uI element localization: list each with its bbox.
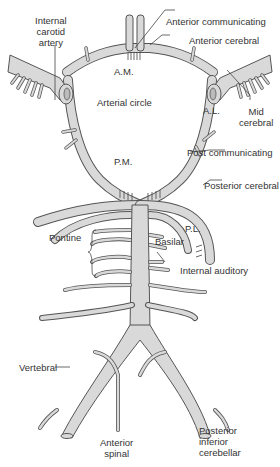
label-posterior-cerebral: Posterior cerebral bbox=[204, 180, 279, 191]
label-line: inferior bbox=[199, 436, 241, 447]
label-anterior-communicating: Anterior communicating bbox=[166, 16, 266, 27]
label-pl: P.L. bbox=[185, 223, 201, 234]
label-line: Posterior bbox=[199, 425, 241, 436]
label-basilar: Basilar bbox=[155, 236, 184, 247]
label-pm: P.M. bbox=[114, 156, 132, 167]
label-internal-auditory: Internal auditory bbox=[180, 265, 248, 276]
label-anterior-cerebral: Anterior cerebral bbox=[189, 35, 259, 46]
label-arterial-circle: Arterial circle bbox=[97, 97, 152, 108]
label-line: spinal bbox=[100, 448, 133, 459]
label-pontine: Pontine bbox=[49, 232, 81, 243]
label-post-communicating: Post communicating bbox=[187, 147, 273, 158]
label-line: Internal bbox=[35, 15, 67, 26]
label-posterior-inferior-cerebellar: Posterior inferior cerebellar bbox=[199, 425, 241, 458]
label-anterior-spinal: Anterior spinal bbox=[100, 437, 133, 459]
label-line: cerebral bbox=[239, 117, 273, 128]
label-line: Mid bbox=[239, 106, 273, 117]
label-al: A.L. bbox=[203, 105, 220, 116]
label-am: A.M. bbox=[114, 66, 134, 77]
label-line: Anterior bbox=[100, 437, 133, 448]
label-line: carotid bbox=[35, 26, 67, 37]
vessel-drawing bbox=[0, 0, 280, 467]
label-line: artery bbox=[35, 37, 67, 48]
label-internal-carotid-artery: Internal carotid artery bbox=[35, 15, 67, 48]
label-vertebral: Vertebral bbox=[19, 362, 57, 373]
label-line: cerebellar bbox=[199, 447, 241, 458]
label-mid-cerebral: Mid cerebral bbox=[239, 106, 273, 128]
arterial-circle-diagram: Internal carotid artery Anterior communi… bbox=[0, 0, 280, 467]
